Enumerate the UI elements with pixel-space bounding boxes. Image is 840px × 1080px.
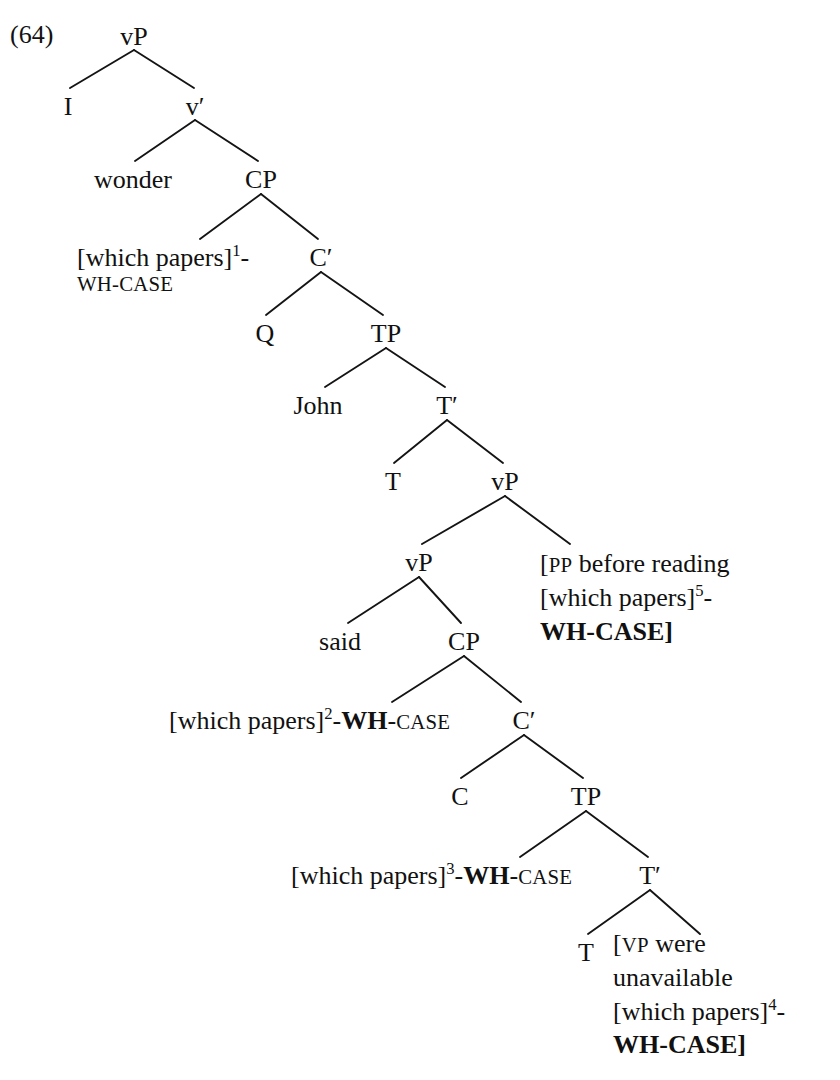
edge-vptop-vbar [134, 50, 194, 88]
edge-CP1-Cbar1 [261, 194, 318, 239]
wh-phrase-3-index: 3 [446, 859, 454, 878]
vp-line1: were [655, 929, 706, 958]
vp-block: [VP were unavailable [which papers]4- WH… [613, 927, 828, 1062]
wh-phrase-3: [which papers]3-WH-CASE [291, 861, 572, 890]
wh-phrase-2-bracket-open: [ [169, 706, 178, 735]
node-vP-top: vP [120, 22, 147, 51]
edge-Cbar1-TP1 [321, 272, 383, 315]
edge-vPmid-PP [505, 496, 570, 544]
vp-phrase-close: ] [760, 997, 769, 1026]
vp-hyphen: - [777, 997, 786, 1026]
node-I: I [64, 92, 73, 121]
pp-adjunct-block: [PP before reading [which papers]5- WH-C… [540, 547, 790, 648]
node-vP-inner: vP [405, 548, 432, 577]
edge-Cbar1-Q [266, 272, 321, 315]
edge-CP2-Cbar2 [464, 656, 521, 702]
node-T-bar-1: T′ [436, 391, 458, 420]
edge-Cbar2-TP2 [524, 735, 583, 778]
node-CP-1: CP [245, 165, 277, 194]
node-C-2: C [451, 782, 468, 811]
node-said: said [319, 627, 361, 656]
tree-edges [0, 0, 840, 1080]
vp-bracket-close: ] [737, 1030, 746, 1059]
pp-phrase-open: [ [540, 583, 549, 612]
edge-TP2-wh3 [520, 811, 586, 857]
wh-phrase-2-separator: - [387, 706, 396, 735]
wh-phrase-3-wh-label: WH [463, 861, 509, 890]
node-Q: Q [256, 319, 275, 348]
wh-phrase-3-hyphen: - [455, 861, 464, 890]
pp-phrase-text: which papers [549, 583, 687, 612]
wh-phrase-1: [which papers]1- WH-CASE [77, 243, 249, 295]
node-v-bar: v′ [186, 92, 205, 121]
wh-phrase-1-line1: [which papers]1- [77, 243, 249, 272]
wh-phrase-1-case-label: CASE [119, 272, 173, 295]
wh-phrase-3-separator: - [509, 861, 518, 890]
edge-vbar-CP1 [195, 120, 258, 161]
edge-TP1-John [325, 348, 386, 387]
pp-bracket-open: [ [540, 549, 549, 578]
edge-vPinner-CP2 [419, 577, 461, 623]
pp-phrase-index: 5 [695, 581, 703, 600]
pp-line1: before reading [579, 549, 730, 578]
edge-Tbar1-T1 [394, 420, 447, 463]
wh-phrase-3-case-label: CASE [518, 865, 572, 888]
node-T-bar-2: T′ [639, 861, 661, 890]
wh-phrase-3-bracket-close: ] [438, 861, 447, 890]
edge-Cbar2-C2 [461, 735, 524, 778]
edge-vbar-wonder [135, 120, 195, 161]
wh-phrase-2-wh-label: WH [341, 706, 387, 735]
vp-phrase-text: which papers [622, 997, 760, 1026]
wh-phrase-1-index: 1 [232, 241, 240, 260]
edge-Tbar1-vPmid [447, 420, 503, 463]
vp-category-label: VP [622, 933, 649, 956]
wh-phrase-2: [which papers]2-WH-CASE [169, 706, 450, 735]
vp-phrase-open: [ [613, 997, 622, 1026]
pp-feature-label: WH-CASE [540, 617, 664, 646]
wh-phrase-1-features: WH-CASE [77, 272, 249, 295]
vp-line2: unavailable [613, 963, 733, 992]
node-wonder: wonder [94, 165, 172, 194]
wh-phrase-1-bracket-close: ] [224, 243, 233, 272]
node-John: John [293, 391, 342, 420]
pp-hyphen: - [704, 583, 713, 612]
vp-bracket-open: [ [613, 929, 622, 958]
vp-feature-label: WH-CASE [613, 1030, 737, 1059]
wh-phrase-3-bracket-open: [ [291, 861, 300, 890]
wh-phrase-1-bracket-open: [ [77, 243, 86, 272]
edge-vptop-I [70, 50, 134, 88]
pp-category-label: PP [549, 553, 573, 576]
wh-phrase-2-index: 2 [324, 704, 332, 723]
vp-phrase-index: 4 [768, 995, 776, 1014]
wh-phrase-1-wh-label: WH [77, 272, 112, 295]
node-TP-2: TP [571, 782, 601, 811]
wh-phrase-2-text: which papers [178, 706, 316, 735]
node-CP-2: CP [448, 627, 480, 656]
edge-CP1-wh1 [200, 194, 261, 239]
node-C-bar-2: C′ [512, 706, 535, 735]
wh-phrase-2-case-label: CASE [396, 710, 450, 733]
edge-TP2-Tbar2 [586, 811, 648, 857]
node-vP-mid: vP [491, 467, 518, 496]
node-TP-1: TP [371, 319, 401, 348]
edge-TP1-Tbar1 [386, 348, 445, 387]
wh-phrase-2-bracket-close: ] [316, 706, 325, 735]
edge-CP2-wh2 [392, 656, 464, 702]
node-T-2: T [578, 938, 594, 967]
wh-phrase-1-text: which papers [86, 243, 224, 272]
wh-phrase-3-text: which papers [300, 861, 438, 890]
syntax-tree-figure: (64) vP I v′ wonder CP C′ Q TP John T′ T… [0, 0, 840, 1080]
edge-vPmid-vPinner [422, 496, 505, 544]
pp-bracket-close: ] [664, 617, 673, 646]
edge-vPinner-said [348, 577, 419, 623]
pp-phrase-close: ] [687, 583, 696, 612]
node-T-1: T [385, 467, 401, 496]
wh-phrase-1-hyphen: - [241, 243, 250, 272]
example-number: (64) [10, 20, 53, 49]
node-C-bar-1: C′ [309, 243, 332, 272]
wh-phrase-2-hyphen: - [333, 706, 342, 735]
